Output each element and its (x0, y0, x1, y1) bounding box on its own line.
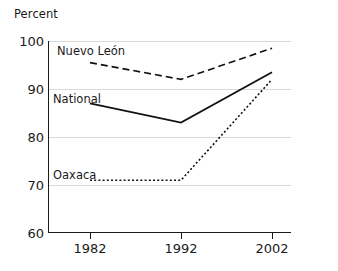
series-lines (0, 0, 338, 271)
series-label-oaxaca: Oaxaca (53, 168, 96, 182)
line-oaxaca (90, 79, 272, 180)
chart-container: Percent 100 90 80 70 60 1982 1992 2002 N… (0, 0, 338, 271)
series-label-national: National (53, 92, 101, 106)
series-label-nuevo-leon: Nuevo León (57, 44, 125, 58)
